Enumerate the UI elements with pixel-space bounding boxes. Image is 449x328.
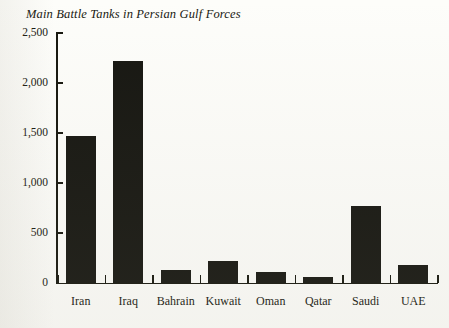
y-axis-line <box>56 32 58 284</box>
x-axis-label-uae: UAE <box>390 295 438 308</box>
y-axis-tick <box>57 82 63 83</box>
x-axis-label-saudi: Saudi <box>342 295 390 308</box>
bar-chart-figure: Main Battle Tanks in Persian Gulf Forces… <box>0 0 449 328</box>
x-axis-tick <box>152 275 154 283</box>
y-axis-tick-label: 2,000 <box>0 77 48 89</box>
x-axis-label-oman: Oman <box>247 295 295 308</box>
y-axis-tick-label: 2,500 <box>0 27 48 39</box>
x-axis-tick <box>105 275 107 283</box>
y-axis-tick <box>57 232 63 233</box>
x-axis-label-iran: Iran <box>57 295 105 308</box>
x-axis-tick <box>295 275 297 283</box>
bar-kuwait <box>208 261 238 283</box>
x-axis-label-iraq: Iraq <box>105 295 153 308</box>
y-axis-tick-label: 1,000 <box>0 177 48 189</box>
y-axis-tick-label: 0 <box>0 277 48 289</box>
bar-oman <box>256 272 286 283</box>
y-axis-tick-label: 1,500 <box>0 127 48 139</box>
x-axis-tick <box>57 275 59 283</box>
bar-iran <box>66 136 96 283</box>
x-axis-tick <box>247 275 249 283</box>
x-axis-label-qatar: Qatar <box>295 295 343 308</box>
x-axis-tick <box>200 275 202 283</box>
bar-qatar <box>303 277 333 283</box>
bar-uae <box>398 265 428 283</box>
x-axis-tick <box>390 275 392 283</box>
x-axis-tick <box>437 275 439 283</box>
x-axis-label-kuwait: Kuwait <box>200 295 248 308</box>
y-axis-tick <box>57 182 63 183</box>
bar-bahrain <box>161 270 191 283</box>
bar-saudi <box>351 206 381 283</box>
y-axis-tick-label: 500 <box>0 227 48 239</box>
x-axis-tick <box>342 275 344 283</box>
x-axis-label-bahrain: Bahrain <box>152 295 200 308</box>
chart-title: Main Battle Tanks in Persian Gulf Forces <box>26 7 241 22</box>
bar-iraq <box>113 61 143 283</box>
y-axis-tick <box>57 32 63 33</box>
y-axis-tick <box>57 132 63 133</box>
